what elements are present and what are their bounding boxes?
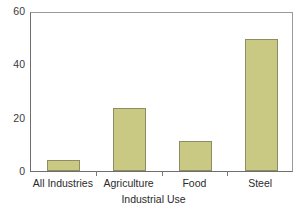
x-axis-title: Industrial Use [0, 193, 307, 205]
x-axis-tick-mark [162, 171, 163, 176]
bar [113, 108, 146, 171]
x-axis-tick-mark [96, 171, 97, 176]
x-axis-category-label: Food [182, 177, 206, 189]
x-axis-category-label: All Industries [33, 177, 93, 189]
y-axis-tick-label: 40 [3, 59, 25, 70]
x-axis-tick-mark [227, 171, 228, 176]
y-axis-tick-label: 20 [3, 113, 25, 124]
x-axis-category-label: Steel [248, 177, 272, 189]
bar [47, 160, 80, 171]
y-axis-tick-label: 0 [3, 166, 25, 177]
x-axis-category-label: Agriculture [104, 177, 154, 189]
y-axis-tick-label: 60 [3, 6, 25, 17]
plot-area [30, 12, 293, 172]
bar [245, 39, 278, 171]
bar [179, 141, 212, 171]
bar-chart: 0204060 All IndustriesAgricultureFoodSte… [0, 0, 307, 214]
